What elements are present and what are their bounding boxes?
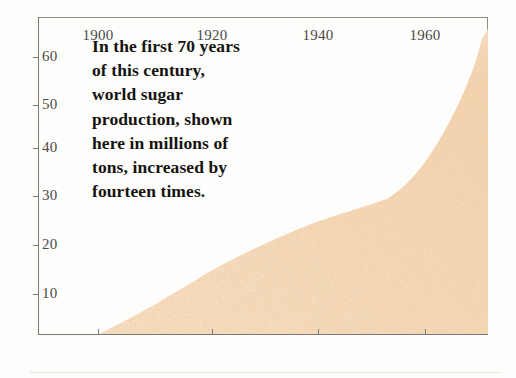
y-tick-label-40: 40 [42, 139, 57, 156]
y-tick-50 [33, 105, 39, 106]
x-tick-1960 [425, 329, 426, 335]
annotation-line-6: tons, increased by [92, 155, 307, 179]
x-tick-1900 [98, 329, 99, 335]
y-tick-label-50: 50 [42, 96, 57, 113]
y-axis-line [38, 17, 39, 335]
y-tick-label-30: 30 [42, 187, 57, 204]
y-tick-label-60: 60 [42, 48, 57, 65]
y-tick-20 [33, 245, 39, 246]
y-tick-60 [33, 57, 39, 58]
x-tick-1940 [318, 329, 319, 335]
annotation-line-5: here in millions of [92, 131, 307, 155]
x-tick-label-1940: 1940 [303, 27, 334, 44]
annotation-line-4: production, shown [92, 107, 307, 131]
annotation-line-2: of this century, [92, 58, 307, 82]
chart-annotation-text: In the first 70 years of this century, w… [92, 34, 307, 203]
x-tick-label-1960: 1960 [410, 27, 441, 44]
x-axis-line [38, 334, 488, 335]
annotation-line-1: In the first 70 years [92, 34, 307, 58]
y-tick-10 [33, 294, 39, 295]
annotation-line-7: fourteen times. [92, 179, 307, 203]
y-tick-40 [33, 148, 39, 149]
page-edge-line [30, 372, 500, 373]
annotation-line-3: world sugar [92, 82, 307, 106]
y-tick-30 [33, 196, 39, 197]
y-tick-label-10: 10 [42, 285, 57, 302]
y-tick-label-20: 20 [42, 236, 57, 253]
x-tick-1920 [212, 329, 213, 335]
